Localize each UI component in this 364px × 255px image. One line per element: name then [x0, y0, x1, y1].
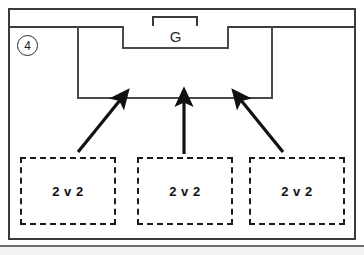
step-number-label: 4 [24, 39, 31, 53]
group-box-label: 2 v 2 [52, 184, 83, 199]
page-edge [0, 245, 364, 255]
goal-box-label: G [170, 29, 182, 44]
group-box-left: 2 v 2 [20, 157, 116, 225]
step-number-badge: 4 [17, 35, 38, 56]
group-box-label: 2 v 2 [169, 184, 200, 199]
group-box-label: 2 v 2 [281, 184, 312, 199]
group-box-right: 2 v 2 [249, 157, 345, 225]
goal-box: G [122, 26, 229, 49]
group-box-middle: 2 v 2 [137, 157, 233, 225]
drill-diagram: G 4 2 v 2 2 v 2 2 v 2 [0, 0, 364, 255]
